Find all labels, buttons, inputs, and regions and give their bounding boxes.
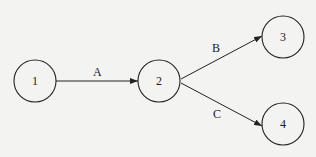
node-label-1: 1 — [32, 74, 38, 88]
edge-label-b: B — [212, 41, 220, 55]
node-4: 4 — [262, 103, 304, 145]
node-3: 3 — [262, 16, 304, 58]
graph-canvas: A B C 1 2 3 4 — [0, 0, 316, 157]
node-label-4: 4 — [280, 117, 286, 131]
node-2: 2 — [138, 60, 180, 102]
node-label-2: 2 — [156, 74, 162, 88]
edge-label-a: A — [93, 65, 102, 79]
node-label-3: 3 — [280, 30, 286, 44]
node-1: 1 — [14, 60, 56, 102]
edge-label-c: C — [213, 107, 221, 121]
edge-2-4 — [181, 83, 262, 126]
edge-2-3 — [181, 36, 262, 79]
